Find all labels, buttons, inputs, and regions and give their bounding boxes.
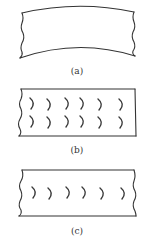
panel-b-crescent-row-2 <box>30 116 122 128</box>
panel-c-crescent-row <box>32 187 124 199</box>
panel-b-label: (b) <box>57 145 97 155</box>
panel-b-strip <box>19 89 137 136</box>
panel-a-bent-strip <box>20 6 135 58</box>
panel-c-label: (c) <box>57 226 97 236</box>
panel-b-right-edge <box>135 89 136 136</box>
panel-b-left-broken-edge <box>19 89 23 136</box>
panel-a-top-edge <box>22 6 134 13</box>
panel-a-left-broken-edge <box>20 13 24 58</box>
figure-canvas <box>0 0 143 241</box>
panel-a-bottom-edge <box>20 47 135 58</box>
panel-a-label: (a) <box>57 66 97 76</box>
panel-c-strip <box>19 170 136 216</box>
panel-c-left-broken-edge <box>19 170 23 216</box>
panel-c-right-broken-edge <box>133 170 136 216</box>
panel-b-crescent-row-1 <box>30 98 122 110</box>
panel-a-right-broken-edge <box>132 12 135 56</box>
